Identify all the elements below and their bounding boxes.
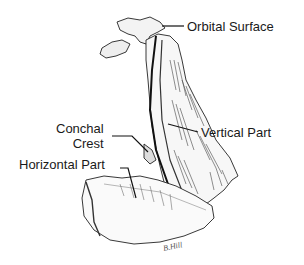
label-horizontal-part: Horizontal Part: [19, 157, 105, 172]
label-vertical-part: Vertical Part: [201, 125, 271, 140]
label-conchal-line1: Conchal: [56, 121, 104, 136]
label-orbital-surface: Orbital Surface: [187, 19, 274, 34]
label-conchal-line2: Crest: [56, 136, 104, 151]
label-conchal-crest: Conchal Crest: [56, 121, 104, 151]
